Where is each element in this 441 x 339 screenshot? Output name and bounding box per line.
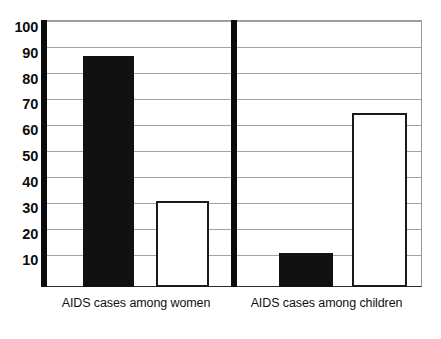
y-axis: 100 90 80 70 60 50 40 30 20 10 xyxy=(0,0,38,339)
plot-area xyxy=(41,20,422,287)
y-tick-label-80: 80 xyxy=(0,72,38,86)
bar-children-filled xyxy=(279,253,333,287)
group-separator-children xyxy=(231,20,237,287)
y-tick-label-50: 50 xyxy=(0,149,38,163)
category-label-women: AIDS cases among women xyxy=(41,296,231,311)
category-label-children: AIDS cases among children xyxy=(231,296,422,311)
bar-chart: 100 90 80 70 60 50 40 30 20 10 AIDS xyxy=(0,0,441,339)
y-tick-label-20: 20 xyxy=(0,227,38,241)
bar-women-filled xyxy=(83,56,134,287)
bar-women-hollow xyxy=(156,201,209,287)
x-axis-category-labels: AIDS cases among women AIDS cases among … xyxy=(41,296,422,326)
y-tick-label-100: 100 xyxy=(0,20,38,34)
bar-children-hollow xyxy=(352,113,407,287)
y-tick-label-10: 10 xyxy=(0,253,38,267)
group-separator-women xyxy=(41,20,47,287)
y-tick-label-30: 30 xyxy=(0,201,38,215)
y-tick-label-40: 40 xyxy=(0,175,38,189)
y-tick-label-60: 60 xyxy=(0,123,38,137)
y-tick-label-70: 70 xyxy=(0,97,38,111)
y-tick-label-90: 90 xyxy=(0,46,38,60)
